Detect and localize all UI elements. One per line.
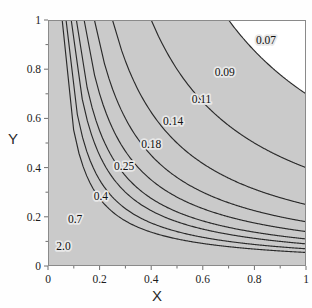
plot-area: 2.02.00.70.70.40.40.250.250.180.180.140.… xyxy=(48,20,306,266)
contour-label: 2.0 xyxy=(56,240,71,252)
y-tick-label: 0.8 xyxy=(27,63,42,75)
x-tick-label: 0 xyxy=(45,273,51,285)
contour-label: 0.25 xyxy=(114,160,134,172)
contour-label: 0.07 xyxy=(256,34,276,46)
contour-svg: 2.02.00.70.70.40.40.250.250.180.180.140.… xyxy=(48,20,306,266)
contour-label: 0.7 xyxy=(68,213,83,225)
contour-plot-figure: 2.02.00.70.70.40.40.250.250.180.180.140.… xyxy=(0,0,312,308)
contour-label: 0.11 xyxy=(192,93,212,105)
x-tick-label: 0.8 xyxy=(247,273,262,285)
x-tick-label: 0.2 xyxy=(92,273,107,285)
contour-label: 0.4 xyxy=(94,190,109,202)
x-tick-label: 0.4 xyxy=(144,273,159,285)
contour-label: 0.09 xyxy=(215,66,235,78)
y-tick-label: 0 xyxy=(35,260,41,272)
y-axis-label: Y xyxy=(8,130,18,147)
y-tick-label: 1 xyxy=(35,14,41,26)
y-tick-label: 0.4 xyxy=(27,162,42,174)
contour-label: 0.18 xyxy=(141,138,161,150)
x-tick-label: 0.6 xyxy=(196,273,211,285)
y-tick-label: 0.6 xyxy=(27,112,42,124)
contour-label: 0.14 xyxy=(163,115,183,127)
x-axis-label: X xyxy=(152,287,162,304)
x-tick-label: 1 xyxy=(303,273,309,285)
y-tick-label: 0.2 xyxy=(27,211,42,223)
